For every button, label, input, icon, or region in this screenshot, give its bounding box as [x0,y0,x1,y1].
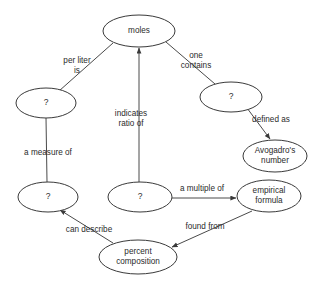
nodes-layer: moles????Avogadro'snumberempiricalformul… [16,15,307,274]
node-label-q-formula: ? [138,191,143,201]
node-label-q-solution: ? [46,191,51,201]
node-label-q-molarity: ? [44,97,49,107]
node-avogadro[interactable]: Avogadro'snumber [243,140,307,172]
node-empirical[interactable]: empiricalformula [237,180,301,212]
node-q-molarity[interactable]: ? [16,88,76,118]
node-q-solution[interactable]: ? [18,182,78,212]
edge-e-moles-molarity [59,43,113,91]
concept-map-canvas: moles????Avogadro'snumberempiricalformul… [0,0,317,285]
node-q-formula[interactable]: ? [108,182,172,212]
node-label-q-particles: ? [229,91,234,101]
node-moles[interactable]: moles [103,15,175,47]
edge-label-e-molarity-soln: a measure of [24,148,73,157]
node-label-empirical: empiricalformula [253,186,286,205]
node-percent[interactable]: percentcomposition [99,240,177,274]
edge-label-e-formula-emp: a multiple of [180,184,225,193]
edge-label-e-percent-soln: can describe [66,225,113,234]
edge-label-e-emp-percent: found from [185,222,224,231]
edge-label-e-moles-particles: onecontains [181,51,212,70]
edge-label-e-particles-avo: defined as [252,115,290,124]
node-q-particles[interactable]: ? [200,82,262,112]
concept-map-diagram: moles????Avogadro'snumberempiricalformul… [0,0,317,285]
node-label-moles: moles [128,26,150,35]
edge-label-e-formula-moles: indicatesratio of [115,109,147,128]
